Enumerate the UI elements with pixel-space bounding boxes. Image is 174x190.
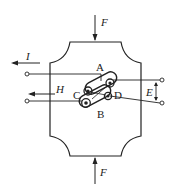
diagram-canvas: F F I H A C E: [0, 0, 174, 190]
point-a-label: A: [96, 61, 104, 73]
current-label: I: [25, 50, 31, 62]
point-b-label: B: [97, 108, 104, 120]
force-arrow-bottom: [93, 157, 98, 184]
force-label-top: F: [100, 16, 108, 28]
sample-body-outline: [50, 42, 141, 156]
point-d-label: D: [114, 89, 122, 101]
emf-arrow: [154, 82, 158, 101]
emf-label: E: [145, 86, 153, 98]
wire-right-upper: [113, 78, 164, 82]
force-arrow-top: [93, 15, 98, 41]
force-label-bottom: F: [99, 166, 107, 178]
field-arrow: [28, 92, 55, 97]
field-label: H: [55, 83, 65, 95]
wire-a: [25, 72, 101, 81]
roller-lower-left: [82, 99, 91, 108]
hall-element: [77, 70, 119, 110]
